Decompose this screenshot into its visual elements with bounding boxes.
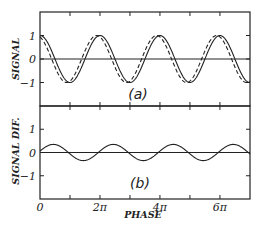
x-tick-label: 2π bbox=[92, 201, 108, 214]
y-axis-title-bottom: SIGNAL DIF. bbox=[10, 117, 21, 184]
panel-label-b: (b) bbox=[130, 175, 150, 191]
y-axis-title-top: SIGNAL bbox=[10, 38, 21, 80]
panel-label-a: (a) bbox=[128, 86, 148, 102]
x-tick-label: 6π bbox=[213, 201, 228, 214]
plot-frame bbox=[40, 12, 250, 199]
x-axis-title: PHASE bbox=[123, 209, 162, 220]
y-tick-label: −1 bbox=[20, 77, 36, 90]
y-tick-label: 1 bbox=[29, 30, 36, 43]
y-tick-label: 0 bbox=[29, 53, 36, 66]
y-tick-label: 0 bbox=[29, 147, 36, 160]
chart-figure: 10−110−102π4π6π SIGNAL SIGNAL DIF. PHASE… bbox=[0, 0, 261, 233]
y-tick-label: 1 bbox=[29, 123, 36, 136]
y-tick-label: −1 bbox=[20, 170, 36, 183]
x-tick-label: 0 bbox=[37, 201, 44, 214]
